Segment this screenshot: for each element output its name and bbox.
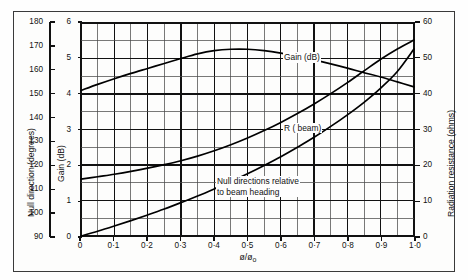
radiation-resistance-tick-label: 60 (423, 18, 432, 26)
radiation-resistance-tick-mark (415, 201, 420, 202)
gain-tick-label: 3 (66, 125, 71, 133)
radiation-resistance-axis-title: Radiation resistance (ohms) (446, 110, 456, 217)
x-tick-label: 0·4 (208, 242, 220, 250)
null-direction-axis-title: Null direction (degrees) (26, 128, 36, 217)
radiation-resistance-tick-label: 40 (423, 90, 432, 98)
x-tick-label: 0·7 (309, 242, 321, 250)
x-tick-label: 0·3 (175, 242, 187, 250)
radiation-resistance-tick-label: 10 (423, 197, 432, 205)
null-direction-tick-label: 140 (29, 113, 43, 121)
radiation-resistance-tick-mark (415, 57, 420, 58)
r-beam-curve-label: R ( beam) (283, 123, 322, 134)
null-curve-label: Null directions relative to beam heading (216, 176, 300, 197)
null-direction-tick-label: 90 (34, 233, 43, 241)
x-tick-label: 0·8 (342, 242, 354, 250)
curve-null-direction (81, 49, 414, 236)
gain-tick-label: 6 (66, 18, 71, 26)
gain-tick-label: 2 (66, 161, 71, 169)
x-axis-title-sub: øo (247, 252, 256, 262)
null-direction-tick-label: 160 (29, 66, 43, 74)
radiation-resistance-tick-mark (415, 165, 420, 166)
gain-tick-label: 0 (66, 233, 71, 241)
null-curve-label-line1: Null directions relative (217, 176, 299, 186)
x-tick-label: 0·9 (376, 242, 388, 250)
gain-tick-label: 5 (66, 54, 71, 62)
x-tick-label: 0·6 (275, 242, 287, 250)
radiation-resistance-tick-mark (415, 93, 420, 94)
null-direction-tick-label: 170 (29, 42, 43, 50)
x-tick-label: 0·5 (242, 242, 254, 250)
null-curve-label-line2: to beam heading (217, 187, 279, 197)
curve-gain (81, 49, 414, 90)
figure: 90100110120130140150160170180 Null direc… (0, 0, 468, 280)
gain-axis-title: Gain (dB) (56, 145, 66, 182)
x-tick-label: 0·2 (141, 242, 153, 250)
radiation-resistance-tick-label: 0 (423, 233, 428, 241)
gain-axis: 0123456 (50, 22, 78, 237)
gain-tick-label: 4 (66, 90, 71, 98)
curves (81, 23, 414, 236)
x-axis-title: ø/øo (240, 252, 257, 263)
radiation-resistance-axis: 0102030405060 (415, 22, 445, 237)
gain-tick-label: 1 (66, 197, 71, 205)
gain-curve-label: Gain (dB) (283, 52, 321, 63)
radiation-resistance-tick-label: 30 (423, 125, 432, 133)
x-tick-label: 0 (78, 242, 83, 250)
radiation-resistance-tick-mark (415, 21, 420, 22)
x-axis-title-text: ø/ (240, 252, 248, 262)
radiation-resistance-tick-label: 50 (423, 54, 432, 62)
radiation-resistance-tick-mark (415, 129, 420, 130)
x-tick-label: 1·0 (409, 242, 421, 250)
curve-radiation-resistance (81, 40, 414, 179)
plot-area (80, 22, 415, 237)
radiation-resistance-tick-label: 20 (423, 161, 432, 169)
null-direction-tick-label: 180 (29, 18, 43, 26)
null-direction-tick-label: 150 (29, 90, 43, 98)
x-tick-label: 0·1 (108, 242, 120, 250)
radiation-resistance-tick-mark (415, 236, 420, 237)
